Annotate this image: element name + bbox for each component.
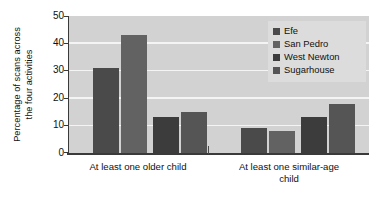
legend-item-sugarhouse: Sugarhouse (273, 64, 361, 76)
legend-item-efe: Efe (273, 25, 361, 37)
legend-label-san-pedro: San Pedro (284, 39, 328, 49)
x-axis-group-divider-tick (208, 146, 209, 154)
bar-older-san-pedro (121, 35, 147, 153)
legend-label-sugarhouse: Sugarhouse (284, 65, 335, 75)
legend-item-san-pedro: San Pedro (273, 38, 361, 50)
x-tick-label-similar-age-line2: child (279, 173, 299, 184)
x-tick-label-older-child: At least one older child (72, 161, 204, 173)
legend-label-west-newton: West Newton (284, 52, 340, 62)
bar-similar-efe (241, 128, 267, 153)
bar-similar-san-pedro (269, 131, 295, 153)
y-tick-label-10: 10 (38, 120, 64, 130)
legend-swatch-west-newton (273, 54, 280, 61)
bar-similar-sugarhouse (329, 104, 355, 153)
x-tick-label-similar-age-line1: At least one similar-age (239, 161, 339, 172)
legend: Efe San Pedro West Newton Sugarhouse (268, 21, 366, 82)
legend-swatch-efe (273, 28, 280, 35)
y-axis-tick-labels: 50 40 30 20 10 0 (38, 0, 64, 199)
bar-older-west-newton (153, 117, 179, 153)
y-tick-label-20: 20 (38, 93, 64, 103)
x-axis-line (67, 153, 369, 155)
y-axis-title-line2: the four activities (23, 27, 35, 142)
bar-chart-figure: Percentage of scans across the four acti… (0, 0, 376, 199)
y-tick-label-50: 50 (38, 11, 64, 21)
bar-older-sugarhouse (181, 112, 207, 153)
legend-item-west-newton: West Newton (273, 51, 361, 63)
y-tick-label-30: 30 (38, 65, 64, 75)
x-tick-label-similar-age-child: At least one similar-age child (214, 161, 364, 184)
legend-swatch-sugarhouse (273, 67, 280, 74)
y-tick-label-40: 40 (38, 38, 64, 48)
legend-label-efe: Efe (284, 26, 298, 36)
bar-older-efe (93, 68, 119, 153)
legend-swatch-san-pedro (273, 41, 280, 48)
y-axis-title-line1: Percentage of scans across (12, 27, 22, 142)
y-tick-label-0: 0 (38, 148, 64, 158)
bar-similar-west-newton (301, 117, 327, 153)
